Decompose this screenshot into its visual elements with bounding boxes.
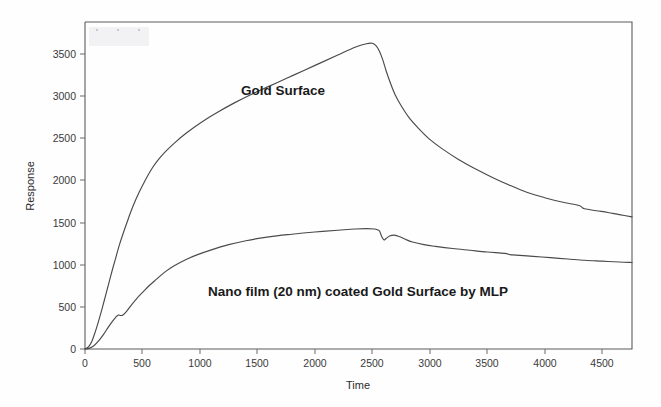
series-label-nano-film: Nano film (20 nm) coated Gold Surface by… xyxy=(208,284,508,299)
y-axis-tick-labels: 0 500 1000 1500 2000 2500 3000 3500 xyxy=(53,48,77,355)
x-tick-label-4500: 4500 xyxy=(590,357,614,369)
y-tick-label-1500: 1500 xyxy=(53,217,77,229)
sensorgram-chart: 0 500 1000 1500 2000 2500 3000 3500 0 50… xyxy=(0,0,661,407)
y-tick-label-3000: 3000 xyxy=(53,90,77,102)
y-tick-label-0: 0 xyxy=(70,343,76,355)
x-tick-label-3000: 3000 xyxy=(418,357,442,369)
y-tick-label-3500: 3500 xyxy=(53,48,77,60)
x-tick-label-2500: 2500 xyxy=(360,357,384,369)
x-axis-title: Time xyxy=(346,379,370,391)
y-tick-label-500: 500 xyxy=(58,301,76,313)
series-label-gold-surface: Gold Surface xyxy=(241,83,326,98)
x-tick-label-1000: 1000 xyxy=(188,357,212,369)
series-line-gold-surface xyxy=(85,43,632,349)
y-tick-label-2000: 2000 xyxy=(53,174,77,186)
x-tick-label-2000: 2000 xyxy=(303,357,327,369)
x-tick-label-4000: 4000 xyxy=(533,357,557,369)
x-tick-label-3500: 3500 xyxy=(475,357,499,369)
x-tick-label-0: 0 xyxy=(82,357,88,369)
x-tick-label-1500: 1500 xyxy=(245,357,269,369)
figure-canvas: 0 500 1000 1500 2000 2500 3000 3500 0 50… xyxy=(0,0,661,407)
x-axis-tick-labels: 0 500 1000 1500 2000 2500 3000 3500 4000… xyxy=(82,357,614,369)
y-axis-title: Response xyxy=(24,161,36,211)
scan-artifact xyxy=(89,27,149,46)
x-axis-ticks xyxy=(85,349,602,354)
plot-frame xyxy=(85,22,632,349)
y-axis-ticks xyxy=(80,54,85,349)
x-tick-label-500: 500 xyxy=(133,357,151,369)
y-tick-label-2500: 2500 xyxy=(53,132,77,144)
y-tick-label-1000: 1000 xyxy=(53,259,77,271)
